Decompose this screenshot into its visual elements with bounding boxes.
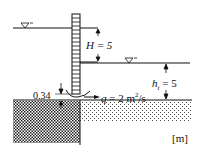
upstream-head-label: H = 5: [86, 40, 112, 51]
water-surface-icon-downstream: [125, 58, 137, 63]
discharge-unit: /s: [139, 92, 146, 104]
units-label: [m]: [172, 133, 188, 144]
discharge-label: q = 2 m2/s: [101, 90, 146, 104]
sluice-gate: [72, 14, 80, 94]
downstream-ground-stipple: [80, 101, 192, 122]
tailwater-depth-label: ht = 5: [152, 78, 177, 94]
water-surface-icon: [21, 23, 33, 28]
upstream-ground-hatch: [13, 101, 80, 143]
tailwater-value: = 5: [159, 77, 176, 89]
discharge-value: = 2 m: [107, 92, 136, 104]
gate-opening-label: 0.34: [33, 90, 51, 101]
discharge-arrow: [84, 95, 100, 99]
